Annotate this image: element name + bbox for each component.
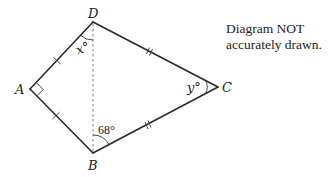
side-ab bbox=[30, 89, 93, 153]
side-bc bbox=[93, 87, 218, 153]
vertex-label-b: B bbox=[87, 158, 98, 173]
vertex-label-d: D bbox=[87, 6, 99, 21]
angle-label-y: y° bbox=[186, 80, 201, 95]
angle-label-68: 68° bbox=[98, 123, 115, 137]
right-angle-marker bbox=[36, 82, 43, 96]
vertex-label-c: C bbox=[222, 80, 232, 95]
vertex-label-a: A bbox=[14, 82, 24, 97]
angle-label-x: x° bbox=[74, 39, 92, 58]
side-dc bbox=[93, 22, 218, 87]
kite-diagram: D A B C x° y° 68° Diagram NOT accurately… bbox=[0, 0, 332, 177]
angle-arc-c bbox=[206, 81, 208, 94]
note-line-1: Diagram NOT bbox=[226, 21, 305, 36]
note-line-2: accurately drawn. bbox=[226, 37, 322, 52]
